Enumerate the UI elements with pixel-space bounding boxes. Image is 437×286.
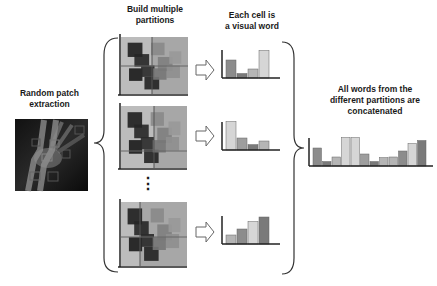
left-brace <box>94 38 118 272</box>
image-patch <box>169 122 181 136</box>
histogram-bar <box>332 157 341 166</box>
concatenated-histogram <box>309 138 433 167</box>
histogram-bar <box>389 157 398 166</box>
right-brace <box>282 42 304 274</box>
image-patch <box>134 54 149 67</box>
histogram-bar <box>237 138 247 150</box>
image-patch <box>141 137 154 149</box>
image-patch <box>151 112 164 126</box>
histogram-bar <box>380 158 389 166</box>
xray-image <box>15 119 88 191</box>
image-patch <box>134 221 149 235</box>
image-patch <box>169 218 181 232</box>
image-patch <box>153 68 166 79</box>
diagram-canvas <box>0 0 437 286</box>
histogram-bar <box>259 50 269 78</box>
histogram-bar <box>361 154 370 166</box>
image-patch <box>134 125 149 139</box>
right-arrow-icon-2 <box>196 126 214 146</box>
image-patch <box>166 137 179 151</box>
histogram-bar <box>408 144 417 167</box>
image-patch <box>129 68 142 81</box>
right-arrow-icon-1 <box>196 60 214 80</box>
right-arrow-icon-3 <box>196 222 214 242</box>
histogram-bar <box>248 222 258 245</box>
histogram-bar <box>399 151 408 166</box>
partition-image-1 <box>118 34 188 95</box>
histogram-bar <box>259 217 269 244</box>
histogram-bar <box>342 138 351 167</box>
histogram-bar <box>418 141 427 167</box>
image-patch <box>129 140 142 154</box>
histogram-bar <box>237 229 247 244</box>
histogram-bar <box>226 60 236 78</box>
histogram-bar <box>226 235 236 244</box>
image-patch <box>166 234 179 248</box>
histogram-bar <box>226 122 236 151</box>
histogram-bar <box>248 69 258 78</box>
histogram-bar <box>248 145 258 150</box>
partition-image-3 <box>118 199 187 267</box>
ellipsis: ⋮ <box>140 176 154 192</box>
histogram-bar <box>351 138 360 167</box>
histogram-bar <box>259 141 269 150</box>
image-patch <box>151 43 164 56</box>
image-patch <box>151 208 164 222</box>
image-patch <box>169 51 181 64</box>
histogram-2 <box>222 122 280 151</box>
histogram-bar <box>313 148 322 166</box>
histogram-1 <box>222 50 280 78</box>
image-patch <box>141 234 154 247</box>
image-patch <box>153 237 166 250</box>
histogram-3 <box>222 216 280 244</box>
partition-image-2 <box>118 103 187 169</box>
image-patch <box>167 66 180 79</box>
